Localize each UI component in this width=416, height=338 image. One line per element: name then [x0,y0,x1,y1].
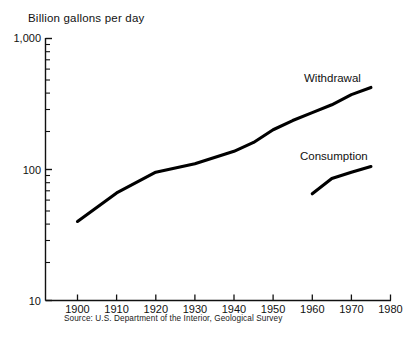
x-tick-label-1970: 1970 [339,303,363,315]
series-annotation-withdrawal: Withdrawal [304,72,361,84]
y-axis-major-ticks [46,39,53,301]
x-tick-label-1980: 1980 [378,303,402,315]
x-tick-label-1960: 1960 [300,303,324,315]
series-line-consumption [312,166,371,193]
y-tick-label-10: 10 [29,295,41,307]
series-annotation-consumption: Consumption [300,150,368,162]
source-note: Source: U.S. Department of the Interior,… [64,314,282,323]
chart-plot-area: 1,000 100 10 1900 1910 1920 1930 1940 19… [0,0,416,338]
chart-container: Billion gallons per day [0,0,416,338]
y-tick-label-100: 100 [23,164,41,176]
y-tick-label-1000: 1,000 [13,32,41,44]
x-axis-ticks [78,295,391,301]
